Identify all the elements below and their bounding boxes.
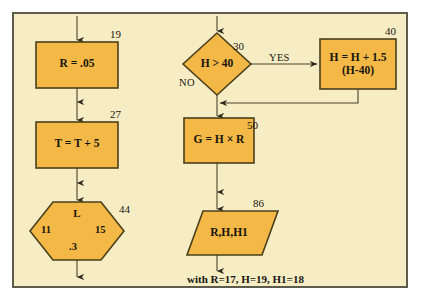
node-h-update: [320, 39, 396, 89]
node-r-assign: [36, 42, 118, 88]
flowchart-figure: R = .05 19 T = T + 5 27 L 11 15 .3 44 H …: [0, 0, 422, 308]
flowchart-graphics: [0, 0, 422, 308]
node-l-loop: [30, 202, 124, 260]
node-t-assign: [36, 122, 118, 168]
node-g-assign: [184, 118, 254, 163]
node-output: [187, 211, 278, 255]
node-h-test: [183, 33, 251, 95]
connector-update-return: [220, 89, 358, 103]
